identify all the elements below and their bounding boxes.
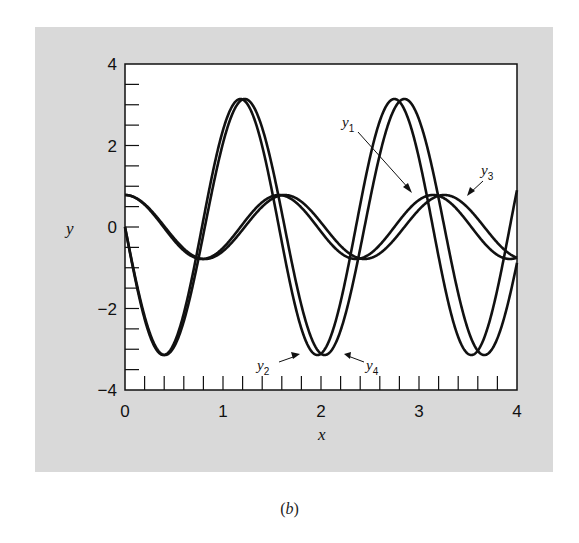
y3-label-base: y [479, 162, 488, 178]
y-tick-label: 0 [108, 218, 117, 237]
x-tick-label: 3 [414, 402, 423, 421]
x-axis-label: x [317, 425, 326, 444]
y1-label-base: y [340, 114, 349, 130]
y2-label-base: y [255, 357, 264, 373]
y2-label-sub: 2 [264, 366, 270, 377]
y1-label-sub: 1 [349, 123, 355, 134]
x-tick-label: 0 [120, 402, 129, 421]
x-tick-label: 4 [512, 402, 521, 421]
y4-label-sub: 4 [373, 366, 379, 377]
x-tick-label: 2 [316, 402, 325, 421]
y-tick-label: 4 [108, 55, 117, 74]
x-tick-label: 1 [218, 402, 227, 421]
plot-area [125, 64, 517, 390]
y-tick-label: 2 [108, 137, 117, 156]
caption-letter: b [286, 500, 294, 517]
y-tick-label: −2 [98, 300, 117, 319]
y4-label-base: y [364, 357, 373, 373]
y-tick-label: −4 [98, 381, 117, 400]
y3-label-sub: 3 [488, 171, 494, 182]
line-chart: 01234420−2−4 y x y1 y3 y2 y4 [0, 0, 579, 543]
figure-caption: (b) [0, 500, 579, 518]
y-axis-label: y [64, 219, 74, 238]
